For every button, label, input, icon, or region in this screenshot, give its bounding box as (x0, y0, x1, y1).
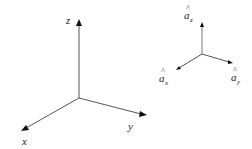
x-arrowhead-icon (21, 125, 29, 131)
x-axis (26, 98, 79, 128)
y-axis-label: y (127, 120, 133, 132)
ax-label-subscript: x (164, 79, 169, 87)
cartesian-axes: z x y (21, 14, 147, 147)
ay-vector (202, 54, 229, 62)
z-arrowhead-icon (76, 19, 82, 26)
az-label-subscript: z (189, 16, 193, 24)
ay-arrowhead-icon (228, 60, 233, 64)
ax-arrowhead-icon (176, 66, 181, 70)
y-arrowhead-icon (139, 111, 147, 117)
az-arrowhead-icon (200, 22, 204, 27)
z-axis-label: z (65, 14, 71, 26)
unit-vectors: ^ a z ^ a x ^ a y (159, 4, 241, 87)
x-axis-label: x (21, 135, 27, 147)
ay-label-subscript: y (236, 78, 241, 86)
ax-vector (179, 54, 202, 68)
coordinate-diagram: z x y ^ a z ^ a x ^ a y (0, 0, 252, 149)
y-axis (79, 98, 141, 114)
